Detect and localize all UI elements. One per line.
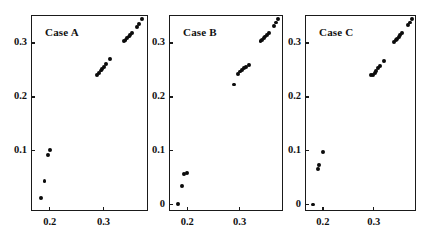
data-point — [378, 64, 382, 68]
y-tick-label: 0 — [271, 198, 301, 209]
data-point — [137, 22, 141, 26]
y-tick-label: 0.2 — [0, 90, 27, 101]
data-point — [104, 62, 108, 66]
data-points-layer — [306, 16, 415, 210]
data-point — [410, 17, 414, 21]
data-point — [317, 163, 321, 167]
data-point — [48, 148, 52, 152]
data-point — [274, 21, 278, 25]
data-point — [276, 17, 280, 21]
data-point — [374, 69, 378, 73]
y-tick-label: 0.1 — [135, 144, 165, 155]
x-tick-label: 0.3 — [224, 216, 256, 227]
data-point — [247, 63, 251, 67]
data-point — [321, 150, 325, 154]
y-tick-label: 0.1 — [271, 144, 301, 155]
data-point — [108, 57, 112, 61]
data-point — [267, 31, 271, 35]
data-point — [39, 196, 43, 200]
y-tick-label: 0.2 — [271, 90, 301, 101]
x-tick-label: 0.2 — [307, 216, 339, 227]
data-point — [130, 31, 134, 35]
x-tick-label: 0.3 — [87, 216, 119, 227]
y-tick-label: 0.1 — [0, 144, 27, 155]
y-tick-label: 0 — [135, 198, 165, 209]
data-points-layer — [170, 16, 282, 210]
y-tick-label: 0.3 — [0, 36, 27, 47]
x-tick-label: 0.3 — [358, 216, 390, 227]
y-tick-label: 0.3 — [135, 36, 165, 47]
data-point — [316, 167, 320, 171]
data-point — [180, 184, 184, 188]
data-point — [176, 202, 180, 206]
data-point — [272, 24, 276, 28]
data-point — [185, 171, 189, 175]
data-point — [382, 59, 386, 63]
x-tick-label: 0.2 — [171, 216, 203, 227]
figure-canvas: Case A0.10.20.30.20.3Case B00.10.20.30.2… — [0, 0, 427, 242]
data-point — [43, 179, 47, 183]
x-tick-label: 0.2 — [34, 216, 66, 227]
data-point — [400, 31, 404, 35]
data-point — [46, 153, 50, 157]
data-point — [232, 83, 236, 87]
data-points-layer — [32, 16, 147, 210]
data-point — [311, 203, 315, 207]
data-point — [135, 25, 139, 29]
y-tick-label: 0.2 — [135, 90, 165, 101]
y-tick-label: 0.3 — [271, 36, 301, 47]
data-point — [408, 21, 412, 25]
data-point — [140, 17, 144, 21]
